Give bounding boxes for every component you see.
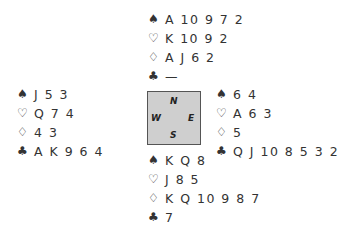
club-icon: ♣	[148, 67, 165, 86]
north-hearts: K 10 9 2	[165, 29, 229, 48]
south-diamonds: K Q 10 9 8 7	[165, 189, 261, 208]
heart-icon: ♡	[17, 104, 34, 123]
west-clubs: A K 9 6 4	[34, 142, 104, 161]
diamond-icon: ♢	[148, 189, 165, 208]
west-hand: ♠J 5 3 ♡Q 7 4 ♢4 3 ♣A K 9 6 4	[17, 85, 104, 161]
north-diamonds: A J 6 2	[165, 48, 216, 67]
spade-icon: ♠	[216, 85, 233, 104]
heart-icon: ♡	[148, 29, 165, 48]
club-icon: ♣	[17, 142, 34, 161]
south-spades: K Q 8	[165, 151, 206, 170]
north-hand: ♠A 10 9 7 2 ♡K 10 9 2 ♢A J 6 2 ♣—	[148, 10, 244, 86]
north-clubs: —	[165, 67, 179, 86]
compass-north: N	[170, 96, 178, 106]
heart-icon: ♡	[216, 104, 233, 123]
spade-icon: ♠	[17, 85, 34, 104]
east-diamonds: 5	[233, 123, 242, 142]
west-diamonds: 4 3	[34, 123, 58, 142]
compass-south: S	[170, 130, 176, 140]
diamond-icon: ♢	[216, 123, 233, 142]
north-spades: A 10 9 7 2	[165, 10, 244, 29]
diamond-icon: ♢	[148, 48, 165, 67]
compass-east: E	[188, 113, 194, 123]
east-hand: ♠6 4 ♡A 6 3 ♢5 ♣Q J 10 8 5 3 2	[216, 85, 339, 161]
heart-icon: ♡	[148, 170, 165, 189]
compass-west: W	[151, 113, 161, 123]
east-spades: 6 4	[233, 85, 257, 104]
south-hearts: J 8 5	[165, 170, 200, 189]
east-hearts: A 6 3	[233, 104, 273, 123]
club-icon: ♣	[148, 208, 165, 227]
south-clubs: 7	[165, 208, 174, 227]
spade-icon: ♠	[148, 10, 165, 29]
west-spades: J 5 3	[34, 85, 69, 104]
diamond-icon: ♢	[17, 123, 34, 142]
compass-box: N W E S	[147, 91, 201, 145]
spade-icon: ♠	[148, 151, 165, 170]
west-hearts: Q 7 4	[34, 104, 75, 123]
south-hand: ♠K Q 8 ♡J 8 5 ♢K Q 10 9 8 7 ♣7	[148, 151, 261, 227]
